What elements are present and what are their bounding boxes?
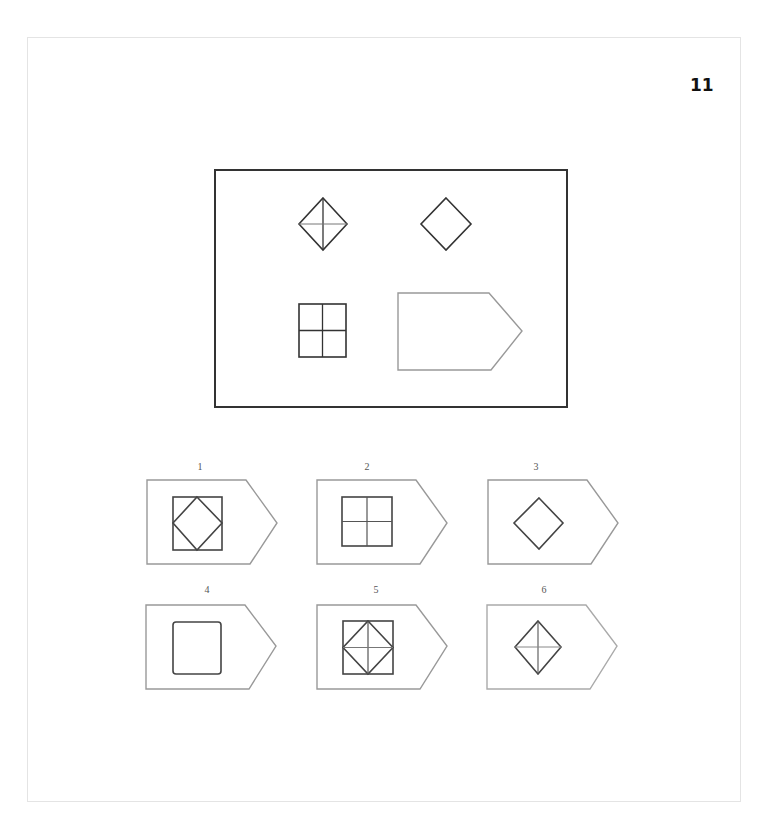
- empty-answer-card: [397, 292, 525, 372]
- page-number: 11: [690, 75, 714, 95]
- option-label-1: 1: [190, 461, 210, 472]
- option-6-card[interactable]: [486, 604, 620, 692]
- square-with-cross-icon: [298, 303, 348, 359]
- option-label-2: 2: [357, 461, 377, 472]
- diamond-icon: [419, 196, 473, 252]
- option-5-card[interactable]: [316, 604, 450, 692]
- option-4-card[interactable]: [145, 604, 279, 692]
- option-label-3: 3: [526, 461, 546, 472]
- question-matrix: [214, 169, 568, 408]
- option-3-card[interactable]: [487, 479, 621, 567]
- option-label-5: 5: [366, 584, 386, 595]
- diamond-with-cross-icon: [297, 196, 349, 252]
- option-label-6: 6: [534, 584, 554, 595]
- option-1-card[interactable]: [146, 479, 280, 567]
- option-label-4: 4: [197, 584, 217, 595]
- option-2-card[interactable]: [316, 479, 450, 567]
